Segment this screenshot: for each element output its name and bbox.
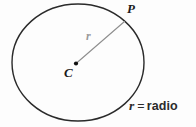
legend-term: radio: [147, 99, 178, 113]
legend-radius-definition: r=radio: [129, 99, 178, 113]
legend-equals-sign: =: [134, 99, 146, 113]
center-c-label: C: [64, 66, 73, 79]
radius-segment-line: [76, 22, 125, 64]
radius-symbol-label: r: [86, 30, 91, 42]
point-p-label: P: [127, 2, 135, 15]
center-point-dot: [74, 61, 78, 65]
circle-radius-diagram: P C r r=radio: [0, 0, 196, 127]
